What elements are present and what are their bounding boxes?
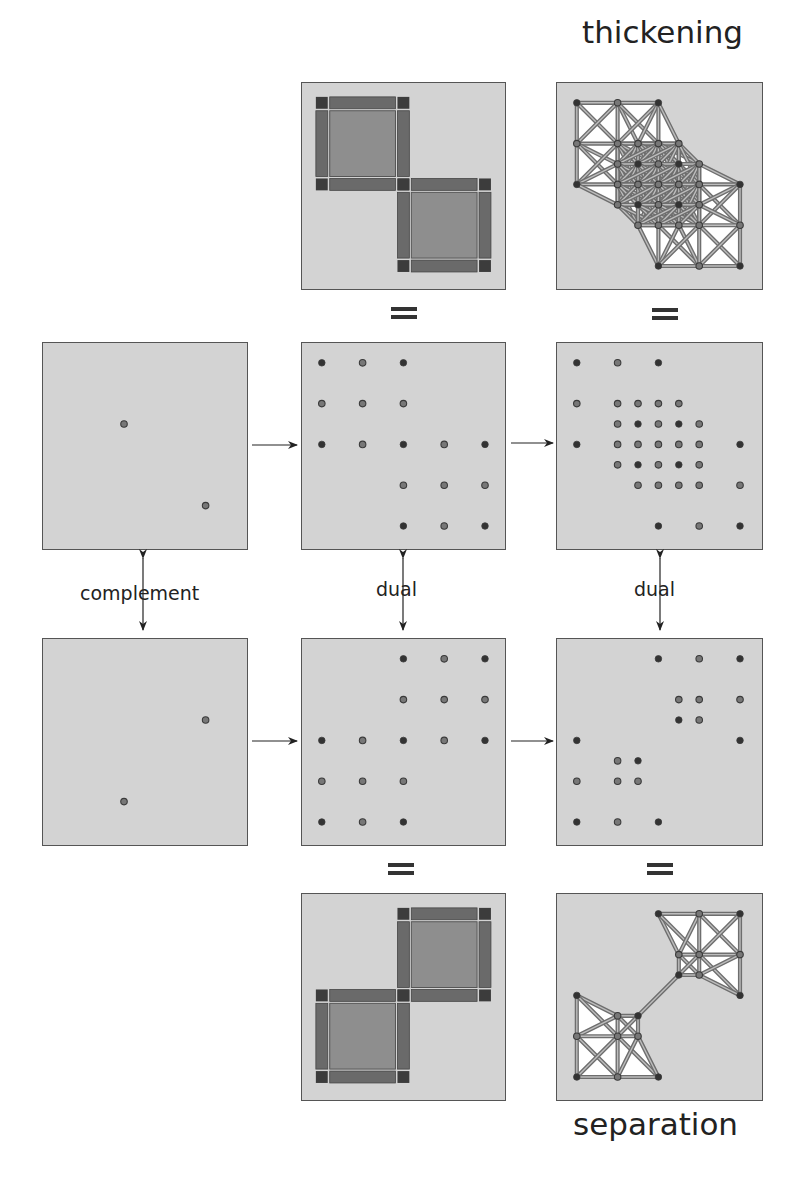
dual-label-right: dual — [634, 578, 675, 600]
block-diagram-top — [302, 83, 505, 289]
point-dark — [574, 737, 581, 744]
point-light — [655, 202, 662, 209]
point-light — [696, 656, 703, 663]
panel-separation-mesh — [556, 893, 763, 1101]
panel-top-blocks — [301, 82, 506, 290]
point-light — [655, 161, 662, 168]
point-dark — [574, 819, 581, 826]
point-dark — [635, 421, 642, 428]
point-dark — [400, 819, 407, 826]
dual-label-mid: dual — [376, 578, 417, 600]
point-dark — [635, 758, 642, 765]
points-row1-mid — [302, 343, 505, 549]
point-light — [676, 222, 683, 229]
point-dark — [574, 360, 581, 367]
point-dark — [400, 441, 407, 448]
point-light — [696, 972, 703, 979]
point-dark — [574, 100, 581, 107]
point-light — [737, 951, 744, 958]
point-light — [359, 819, 366, 826]
point-light — [614, 400, 621, 407]
point-dark — [676, 972, 683, 979]
point-dark — [737, 181, 744, 188]
panel-row1-mid — [301, 342, 506, 550]
complement-label: complement — [80, 582, 199, 604]
point-light — [614, 778, 621, 785]
point-light — [676, 181, 683, 188]
square-block — [397, 908, 490, 1001]
point-light — [655, 400, 662, 407]
point-dark — [635, 462, 642, 469]
point-light — [319, 778, 326, 785]
point-dark — [737, 737, 744, 744]
point-light — [614, 819, 621, 826]
point-dark — [574, 181, 581, 188]
point-light — [655, 181, 662, 188]
thickening-label: thickening — [582, 14, 743, 50]
mesh-separation — [557, 894, 762, 1100]
point-dark — [737, 263, 744, 270]
point-dark — [676, 161, 683, 168]
panel-row1-left — [42, 342, 248, 550]
points-row2-mid — [302, 639, 505, 845]
point-light — [676, 441, 683, 448]
square-block — [397, 178, 490, 271]
point-light — [441, 482, 448, 489]
point-light — [614, 202, 621, 209]
point-light — [202, 717, 209, 724]
point-light — [635, 181, 642, 188]
point-light — [614, 462, 621, 469]
point-dark — [655, 523, 662, 530]
point-light — [655, 222, 662, 229]
point-light — [400, 482, 407, 489]
point-light — [574, 400, 581, 407]
point-light — [676, 400, 683, 407]
point-dark — [676, 421, 683, 428]
point-dark — [482, 656, 489, 663]
point-light — [635, 778, 642, 785]
point-dark — [635, 1013, 642, 1020]
point-dark — [482, 441, 489, 448]
point-light — [696, 911, 703, 918]
point-dark — [737, 441, 744, 448]
point-dark — [635, 202, 642, 209]
point-dark — [676, 202, 683, 209]
equals-sign-bottom-mid — [388, 863, 414, 875]
point-light — [441, 737, 448, 744]
point-dark — [737, 911, 744, 918]
point-light — [696, 263, 703, 270]
separation-label: separation — [573, 1106, 738, 1142]
point-light — [676, 951, 683, 958]
point-light — [696, 717, 703, 724]
point-light — [614, 441, 621, 448]
point-dark — [655, 819, 662, 826]
panel-bottom-blocks — [301, 893, 506, 1101]
point-light — [441, 523, 448, 530]
point-dark — [400, 656, 407, 663]
point-dark — [319, 737, 326, 744]
point-light — [635, 1033, 642, 1040]
point-light — [655, 441, 662, 448]
point-light — [614, 1013, 621, 1020]
point-light — [635, 140, 642, 147]
point-light — [635, 400, 642, 407]
equals-sign-top-right — [652, 308, 678, 320]
point-light — [400, 696, 407, 703]
point-dark — [574, 992, 581, 999]
point-light — [441, 441, 448, 448]
point-light — [696, 523, 703, 530]
points-row1-right — [557, 343, 762, 549]
point-light — [696, 181, 703, 188]
point-light — [400, 400, 407, 407]
point-dark — [655, 656, 662, 663]
point-light — [121, 421, 128, 428]
point-light — [676, 482, 683, 489]
point-light — [614, 421, 621, 428]
point-light — [359, 778, 366, 785]
point-light — [441, 656, 448, 663]
point-light — [655, 462, 662, 469]
point-light — [202, 502, 209, 509]
point-light — [696, 462, 703, 469]
point-light — [614, 360, 621, 367]
point-light — [655, 482, 662, 489]
